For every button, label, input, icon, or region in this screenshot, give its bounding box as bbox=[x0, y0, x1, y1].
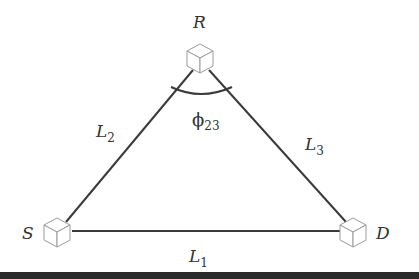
edge-label-l1-main: L bbox=[188, 246, 200, 266]
node-s-cube-icon bbox=[44, 218, 70, 247]
edge-s-r bbox=[66, 70, 193, 222]
angle-sub: 23 bbox=[204, 119, 219, 133]
node-s-label: S bbox=[22, 223, 34, 243]
angle-arc bbox=[171, 87, 232, 94]
edge-label-l1: L1 bbox=[188, 246, 208, 270]
edge-label-l3-sub: 3 bbox=[316, 144, 324, 158]
edge-label-l3-main: L bbox=[304, 134, 316, 154]
edge-label-l2-main: L bbox=[95, 121, 107, 141]
node-r-label: R bbox=[192, 12, 206, 32]
edge-label-l3: L3 bbox=[304, 134, 324, 158]
node-d-cube-icon bbox=[340, 218, 366, 247]
node-r-cube-icon bbox=[187, 44, 213, 73]
relay-diagram: R S D L2 L3 L1 ϕ23 bbox=[0, 0, 419, 279]
edge-label-l1-sub: 1 bbox=[200, 256, 208, 270]
edge-label-l2-sub: 2 bbox=[107, 131, 115, 145]
angle-label: ϕ23 bbox=[192, 109, 220, 133]
angle-symbol: ϕ bbox=[192, 109, 204, 130]
edge-label-l2: L2 bbox=[95, 121, 115, 145]
edge-r-d bbox=[209, 70, 346, 222]
bottom-bar bbox=[0, 272, 419, 279]
node-d-label: D bbox=[375, 223, 390, 243]
